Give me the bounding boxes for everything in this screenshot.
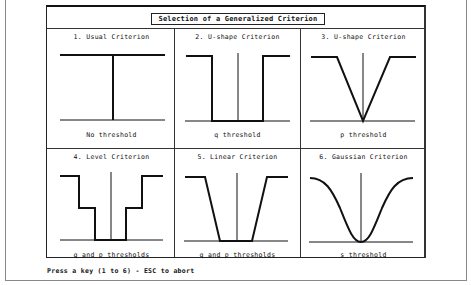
level-criterion-plot (60, 172, 163, 240)
u-shape-q-criterion-plot (185, 53, 290, 121)
usual-criterion-plot (60, 55, 165, 120)
key-prompt: Press a key (1 to 6) - ESC to abort (47, 267, 194, 275)
v-shape-p-criterion-plot (310, 53, 416, 121)
gaussian-criterion-plot (309, 173, 413, 242)
linear-criterion-plot (184, 173, 288, 241)
criterion-plots (0, 0, 471, 285)
